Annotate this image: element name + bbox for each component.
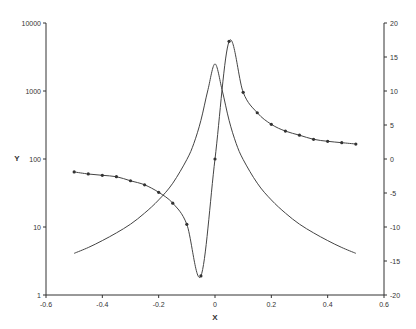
left-y-tick-label: 1 (37, 292, 41, 299)
data-point-marker (129, 179, 132, 182)
right-y-tick-label: -15 (390, 258, 400, 265)
x-tick-label: 0 (213, 301, 217, 308)
right-y-tick-label: 15 (390, 54, 398, 61)
data-point-marker (101, 174, 104, 177)
data-point-marker (171, 202, 174, 205)
x-axis-ticks: -0.6-0.4-0.200.20.40.6 (40, 295, 389, 308)
data-point-marker (213, 157, 216, 160)
y-axis-title: Y (14, 154, 20, 163)
left-y-tick-label: 10000 (22, 20, 42, 27)
data-point-marker (284, 130, 287, 133)
left-y-tick-label: 10 (33, 224, 41, 231)
series-layer (73, 40, 358, 278)
x-tick-label: -0.4 (96, 301, 108, 308)
data-point-marker (143, 183, 146, 186)
right-y-axis-ticks: -20-15-10-505101520 (384, 20, 400, 299)
series-dispersion (73, 40, 358, 278)
data-point-marker (242, 91, 245, 94)
data-point-marker (157, 191, 160, 194)
right-y-tick-label: -10 (390, 224, 400, 231)
x-tick-label: 0.6 (379, 301, 389, 308)
chart: -0.6-0.4-0.200.20.40.6 110100100010000 -… (0, 0, 416, 329)
data-point-marker (312, 138, 315, 141)
data-point-marker (326, 140, 329, 143)
data-point-marker (199, 274, 202, 277)
data-point-marker (87, 172, 90, 175)
data-point-marker (256, 111, 259, 114)
data-point-marker (354, 142, 357, 145)
x-tick-label: 0.2 (266, 301, 276, 308)
data-point-marker (115, 175, 118, 178)
left-y-tick-label: 1000 (25, 88, 41, 95)
right-y-tick-label: 10 (390, 88, 398, 95)
right-y-tick-label: -5 (390, 190, 396, 197)
data-point-marker (340, 141, 343, 144)
x-tick-label: 0.4 (323, 301, 333, 308)
x-tick-label: -0.6 (40, 301, 52, 308)
left-y-tick-label: 100 (29, 156, 41, 163)
right-y-tick-label: 5 (390, 122, 394, 129)
data-point-marker (298, 134, 301, 137)
data-point-marker (73, 170, 76, 173)
right-y-tick-label: 0 (390, 156, 394, 163)
right-y-tick-label: -20 (390, 292, 400, 299)
left-y-axis-ticks: 110100100010000 (22, 20, 46, 299)
data-point-marker (270, 123, 273, 126)
x-axis-title: X (212, 313, 218, 322)
data-point-marker (227, 40, 230, 43)
x-tick-label: -0.2 (153, 301, 165, 308)
data-point-marker (185, 223, 188, 226)
right-y-tick-label: 20 (390, 20, 398, 27)
